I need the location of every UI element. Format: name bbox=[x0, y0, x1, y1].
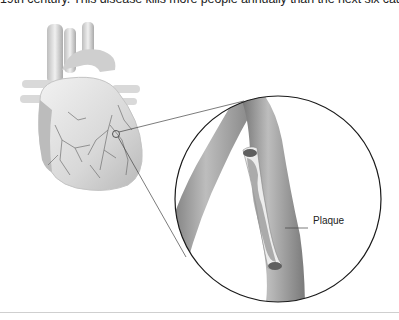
heart-artery-figure bbox=[0, 0, 399, 320]
plaque-label: Plaque bbox=[313, 215, 344, 226]
divider bbox=[0, 312, 399, 313]
heart-illustration bbox=[20, 22, 142, 190]
footer-text-fragment: . . . . . . . . bbox=[228, 316, 315, 320]
magnified-artery bbox=[160, 90, 390, 310]
